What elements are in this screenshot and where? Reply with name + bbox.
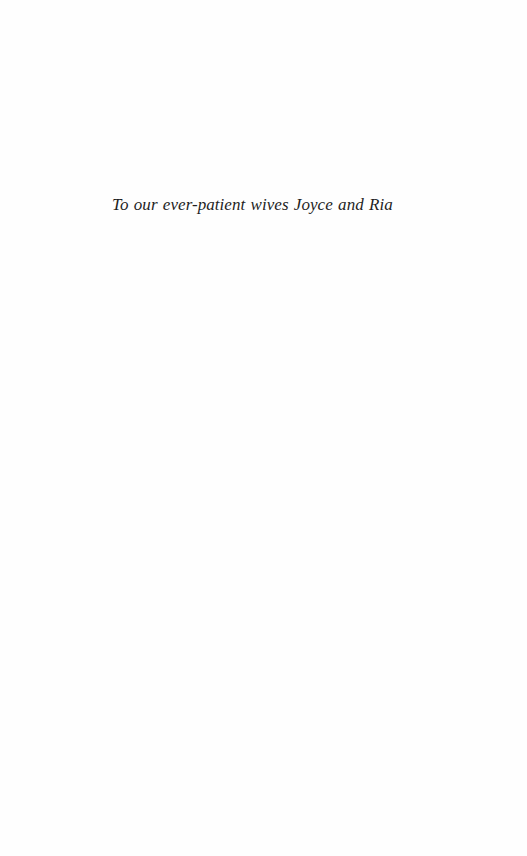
dedication-text: To our ever-patient wives Joyce and Ria bbox=[112, 194, 393, 216]
dedication-page: To our ever-patient wives Joyce and Ria bbox=[0, 0, 527, 856]
